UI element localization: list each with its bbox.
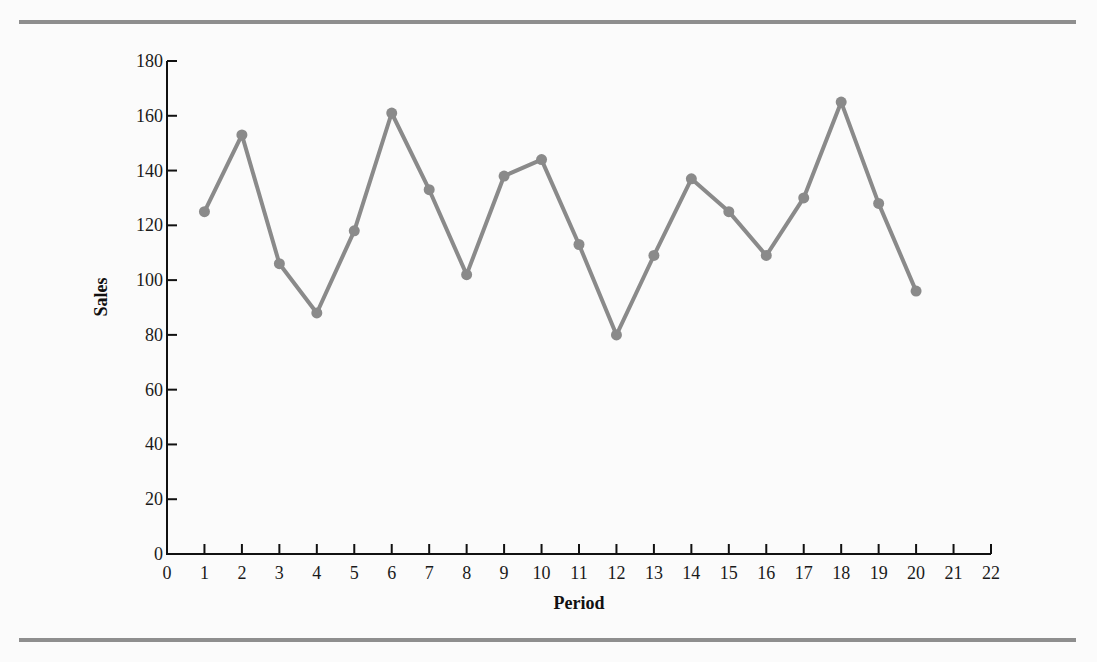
x-axis: 012345678910111213141516171819202122 (163, 544, 1001, 583)
x-tick-label: 9 (500, 563, 509, 583)
y-tick-label: 20 (145, 489, 163, 509)
x-tick-label: 4 (312, 563, 321, 583)
data-point-marker (499, 171, 510, 182)
data-point-marker (311, 307, 322, 318)
data-point-marker (873, 198, 884, 209)
data-point-marker (386, 108, 397, 119)
data-point-marker (686, 173, 697, 184)
y-tick-label: 0 (154, 544, 163, 564)
data-point-marker (274, 258, 285, 269)
data-point-marker (236, 129, 247, 140)
x-tick-label: 0 (163, 563, 172, 583)
x-tick-label: 1 (200, 563, 209, 583)
x-tick-label: 13 (645, 563, 663, 583)
y-tick-label: 80 (145, 325, 163, 345)
data-point-marker (911, 286, 922, 297)
data-point-marker (536, 154, 547, 165)
x-tick-label: 20 (907, 563, 925, 583)
x-tick-label: 18 (832, 563, 850, 583)
y-tick-label: 100 (136, 270, 163, 290)
x-tick-label: 7 (425, 563, 434, 583)
y-tick-label: 140 (136, 161, 163, 181)
data-point-marker (648, 250, 659, 261)
data-point-marker (461, 269, 472, 280)
data-point-marker (349, 225, 360, 236)
data-point-marker (424, 184, 435, 195)
x-tick-label: 19 (870, 563, 888, 583)
x-tick-label: 11 (570, 563, 587, 583)
data-point-marker (611, 329, 622, 340)
x-tick-label: 8 (462, 563, 471, 583)
sales-series (199, 97, 922, 341)
x-tick-label: 16 (757, 563, 775, 583)
x-tick-label: 21 (945, 563, 963, 583)
x-tick-label: 22 (982, 563, 1000, 583)
y-tick-label: 40 (145, 434, 163, 454)
x-tick-label: 3 (275, 563, 284, 583)
x-tick-label: 14 (682, 563, 700, 583)
y-tick-label: 120 (136, 215, 163, 235)
data-point-marker (199, 206, 210, 217)
data-point-marker (798, 192, 809, 203)
data-point-marker (723, 206, 734, 217)
x-tick-label: 6 (387, 563, 396, 583)
line-chart: 020406080100120140160180 012345678910111… (0, 0, 1097, 662)
y-axis-title: Sales (91, 277, 111, 316)
y-axis: 020406080100120140160180 (136, 51, 177, 564)
data-point-marker (836, 97, 847, 108)
x-tick-label: 2 (237, 563, 246, 583)
x-tick-label: 15 (720, 563, 738, 583)
y-tick-label: 180 (136, 51, 163, 71)
y-tick-label: 160 (136, 106, 163, 126)
x-axis-title: Period (554, 593, 605, 613)
x-tick-label: 12 (607, 563, 625, 583)
x-tick-label: 5 (350, 563, 359, 583)
x-tick-label: 17 (795, 563, 813, 583)
series-line (205, 102, 917, 335)
data-point-marker (574, 239, 585, 250)
y-tick-label: 60 (145, 380, 163, 400)
x-tick-label: 10 (533, 563, 551, 583)
data-point-marker (761, 250, 772, 261)
